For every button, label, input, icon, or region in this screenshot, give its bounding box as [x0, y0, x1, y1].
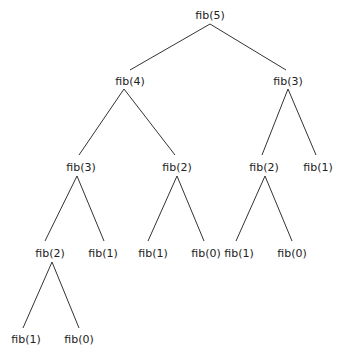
tree-node: fib(2)	[249, 161, 279, 174]
fib-recursion-tree: fib(5)fib(4)fib(3)fib(3)fib(2)fib(2)fib(…	[0, 0, 338, 355]
tree-node: fib(1)	[88, 247, 118, 260]
tree-edge	[177, 176, 204, 241]
tree-edge	[130, 24, 210, 70]
tree-edge	[77, 176, 104, 241]
tree-edge	[124, 89, 175, 155]
tree-node: fib(0)	[191, 247, 221, 260]
tree-node: fib(3)	[273, 75, 303, 88]
tree-edge	[45, 176, 77, 241]
tree-node: fib(5)	[195, 9, 225, 22]
tree-edge	[236, 176, 265, 241]
tree-edge	[265, 176, 292, 241]
tree-edge	[52, 262, 79, 328]
tree-node: fib(1)	[11, 333, 41, 346]
tree-node: fib(2)	[35, 247, 65, 260]
tree-node: fib(1)	[138, 247, 168, 260]
tree-node: fib(1)	[224, 247, 254, 260]
tree-edge	[148, 176, 177, 241]
tree-edge	[262, 89, 288, 155]
tree-edge	[288, 89, 316, 155]
tree-edge	[23, 262, 52, 328]
tree-node: fib(0)	[277, 247, 307, 260]
tree-edges	[0, 0, 338, 355]
tree-edge	[210, 24, 286, 70]
tree-node: fib(4)	[115, 75, 145, 88]
tree-node: fib(0)	[64, 333, 94, 346]
tree-node: fib(1)	[303, 161, 333, 174]
tree-node: fib(2)	[162, 161, 192, 174]
tree-node: fib(3)	[66, 161, 96, 174]
tree-edge	[79, 89, 124, 155]
